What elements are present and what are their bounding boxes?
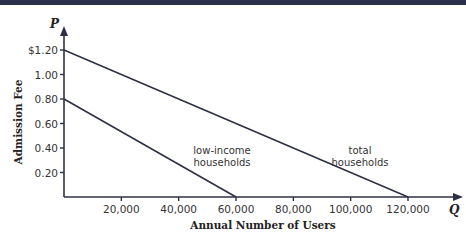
demand-chart: P Q 0.200.400.600.801.00$1.20 20,00040,0…	[0, 0, 466, 234]
x-tick-label: 60,000	[218, 203, 255, 215]
x-axis-arrow-icon	[453, 193, 463, 201]
x-tick-label: 100,000	[329, 203, 372, 215]
y-tick-label: 0.80	[35, 93, 58, 105]
demand-lines	[64, 50, 408, 197]
demand-line	[64, 50, 408, 197]
x-axis-letter: Q	[449, 203, 460, 217]
series-label: households	[332, 157, 389, 168]
x-tick-label: 120,000	[386, 203, 429, 215]
y-tick-label: $1.20	[28, 44, 58, 56]
series-label: total	[349, 145, 372, 156]
y-tick-label: 0.60	[35, 118, 58, 130]
y-tick-label: 1.00	[35, 69, 58, 81]
series-label: low-income	[193, 145, 250, 156]
y-axis-title: Admission Fee	[12, 79, 24, 165]
x-axis-title: Annual Number of Users	[189, 219, 336, 231]
series-label: households	[194, 157, 251, 168]
y-axis-arrow-icon	[60, 26, 68, 36]
axes	[60, 26, 463, 201]
y-axis-letter: P	[49, 17, 60, 31]
y-tick-label: 0.40	[35, 142, 58, 154]
x-ticks: 20,00040,00060,00080,000100,000120,000	[103, 197, 430, 215]
x-tick-label: 80,000	[275, 203, 312, 215]
y-ticks: 0.200.400.600.801.00$1.20	[28, 44, 64, 179]
series-labels: low-incomehouseholdstotalhouseholds	[193, 145, 388, 168]
x-tick-label: 20,000	[103, 203, 140, 215]
x-tick-label: 40,000	[160, 203, 197, 215]
y-tick-label: 0.20	[35, 167, 58, 179]
